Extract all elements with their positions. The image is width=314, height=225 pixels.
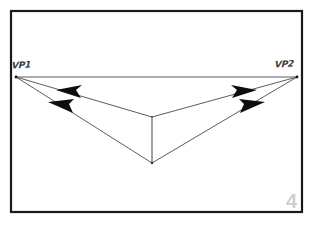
perspective-diagram: VP1 VP2 4	[0, 0, 314, 225]
top-vertex-point	[151, 116, 153, 118]
paper-background	[0, 0, 314, 225]
vp2-label: VP2	[275, 60, 294, 70]
vp1-point	[15, 76, 18, 79]
bottom-vertex-point	[151, 162, 153, 164]
page-number: 4	[286, 191, 297, 211]
vp2-point	[296, 76, 299, 79]
vp1-label: VP1	[12, 61, 31, 71]
diagram-canvas	[0, 0, 314, 225]
